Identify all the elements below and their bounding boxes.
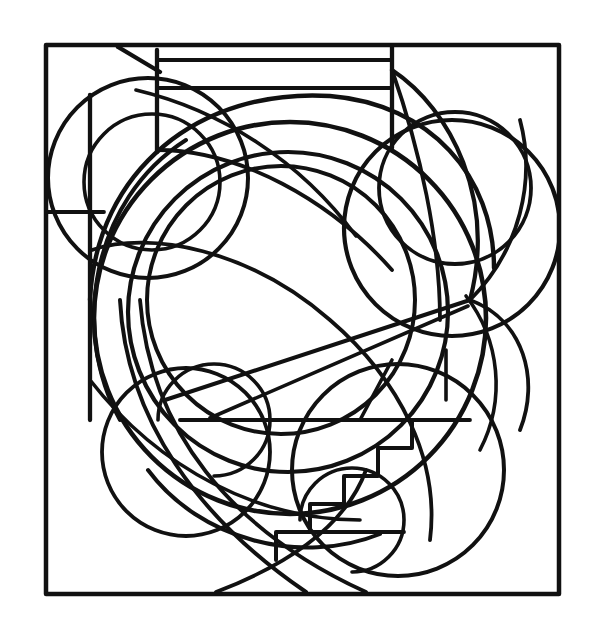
line-art-canvas (0, 0, 596, 640)
artboard (0, 0, 596, 640)
